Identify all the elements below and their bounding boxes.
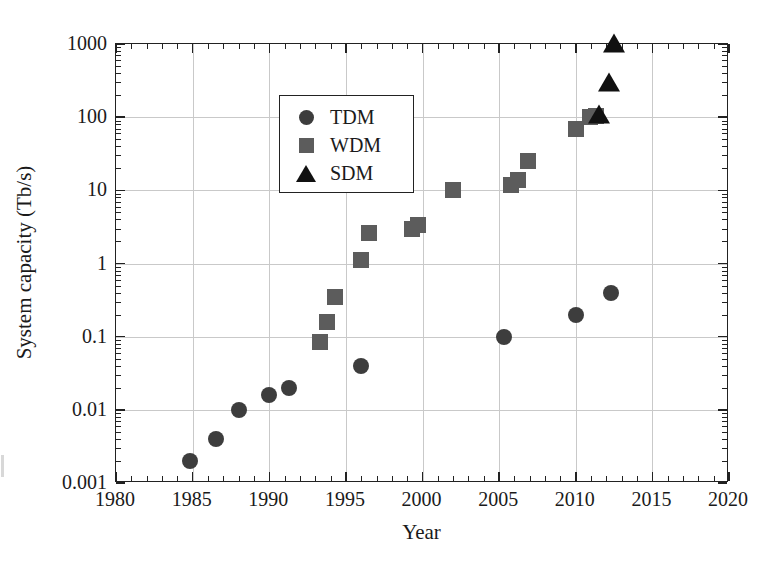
x-axis-tick-minor (131, 476, 132, 481)
plot-area: TDMWDMSDM (115, 43, 728, 482)
y-axis-tick-minor (116, 448, 121, 449)
x-axis-tick-minor (285, 476, 286, 481)
x-axis-tick-major (422, 472, 424, 481)
y-axis-tick-minor (116, 168, 121, 169)
legend-label: SDM (330, 162, 373, 185)
y-axis-tick-minor (116, 366, 121, 367)
data-point-sdm (598, 72, 620, 91)
x-axis-tick-minor (560, 476, 561, 481)
y-axis-tick-label: 100 (77, 106, 107, 126)
x-axis-tick-minor (377, 476, 378, 481)
x-axis-tick-minor (315, 44, 316, 49)
y-axis-tick-label: 1000 (67, 33, 107, 53)
x-axis-tick-minor (468, 476, 469, 481)
y-axis-tick-minor (722, 202, 727, 203)
y-axis-tick-minor (722, 229, 727, 230)
x-axis-tick-minor (591, 476, 592, 481)
y-axis-tick-label: 1 (97, 253, 107, 273)
x-axis-tick-label: 2005 (478, 489, 518, 509)
y-axis-tick-major (718, 116, 727, 118)
x-axis-tick-major (575, 472, 577, 481)
y-axis-tick-minor (116, 51, 121, 52)
y-axis-tick-minor (116, 340, 121, 341)
legend-item-tdm: TDM (280, 103, 413, 131)
x-axis-tick-minor (468, 44, 469, 49)
y-axis-tick-minor (116, 207, 121, 208)
x-axis-tick-minor (698, 44, 699, 49)
data-point-wdm (520, 153, 536, 169)
data-point-tdm (261, 387, 277, 403)
x-axis-tick-minor (668, 476, 669, 481)
y-axis-tick-minor (722, 146, 727, 147)
legend-marker-circle-icon (293, 110, 319, 125)
y-axis-tick-minor (722, 439, 727, 440)
y-axis-tick-minor (116, 55, 121, 56)
x-axis-tick-minor (514, 44, 515, 49)
y-axis-tick-minor (116, 432, 121, 433)
y-axis-tick-minor (116, 229, 121, 230)
x-axis-tick-labels: 198019851990199520002005201020152020 (115, 489, 728, 517)
y-axis-tick-minor (722, 275, 727, 276)
x-axis-tick-major (345, 44, 347, 53)
x-axis-tick-minor (683, 44, 684, 49)
gridline-horizontal (116, 264, 727, 265)
y-axis-tick-major (116, 482, 125, 484)
y-axis-tick-minor (722, 461, 727, 462)
y-axis-tick-minor (722, 421, 727, 422)
y-axis-tick-major (116, 409, 125, 411)
x-axis-tick-minor (714, 44, 715, 49)
y-axis-tick-minor (722, 139, 727, 140)
y-axis-tick-labels: 0.0010.010.11101001000 (0, 43, 107, 482)
y-axis-tick-minor (116, 439, 121, 440)
y-axis-tick-minor (116, 359, 121, 360)
y-axis-tick-minor (722, 51, 727, 52)
y-axis-tick-minor (116, 219, 121, 220)
triangle-icon (296, 165, 316, 182)
y-axis-tick-minor (722, 348, 727, 349)
x-axis-tick-minor (254, 44, 255, 49)
x-axis-tick-minor (208, 44, 209, 49)
x-axis-tick-minor (606, 476, 607, 481)
x-axis-tick-minor (438, 44, 439, 49)
data-point-wdm (327, 289, 343, 305)
y-axis-tick-minor (116, 426, 121, 427)
legend-label: WDM (330, 134, 381, 157)
y-axis-tick-minor (722, 207, 727, 208)
data-point-tdm (208, 431, 224, 447)
x-axis-tick-major (652, 44, 654, 53)
x-axis-tick-label: 2020 (708, 489, 748, 509)
y-axis-tick-minor (116, 124, 121, 125)
y-axis-tick-minor (116, 73, 121, 74)
y-axis-tick-minor (116, 197, 121, 198)
y-axis-tick-minor (116, 194, 121, 195)
y-axis-tick-major (718, 409, 727, 411)
x-axis-tick-minor (545, 44, 546, 49)
x-axis-tick-major (422, 44, 424, 53)
y-axis-tick-minor (722, 168, 727, 169)
x-axis-tick-major (269, 44, 271, 53)
y-axis-tick-major (718, 482, 727, 484)
y-axis-tick-minor (116, 202, 121, 203)
y-axis-tick-minor (722, 293, 727, 294)
x-axis-tick-major (269, 472, 271, 481)
x-axis-tick-minor (331, 476, 332, 481)
y-axis-tick-minor (116, 388, 121, 389)
x-axis-tick-minor (591, 44, 592, 49)
y-axis-tick-major (718, 263, 727, 265)
y-axis-tick-minor (116, 82, 121, 83)
x-axis-tick-minor (239, 44, 240, 49)
x-axis-tick-label: 1985 (172, 489, 212, 509)
y-axis-tick-minor (116, 95, 121, 96)
x-axis-tick-minor (407, 476, 408, 481)
y-axis-tick-minor (116, 421, 121, 422)
y-axis-tick-major (116, 116, 125, 118)
x-axis-tick-major (192, 44, 194, 53)
y-axis-tick-minor (722, 432, 727, 433)
y-axis-tick-minor (722, 82, 727, 83)
x-axis-tick-label: 1995 (325, 489, 365, 509)
data-point-wdm (353, 252, 369, 268)
x-axis-tick-minor (637, 44, 638, 49)
y-axis-tick-minor (722, 353, 727, 354)
gridline-vertical (652, 44, 653, 481)
x-axis-tick-minor (714, 476, 715, 481)
